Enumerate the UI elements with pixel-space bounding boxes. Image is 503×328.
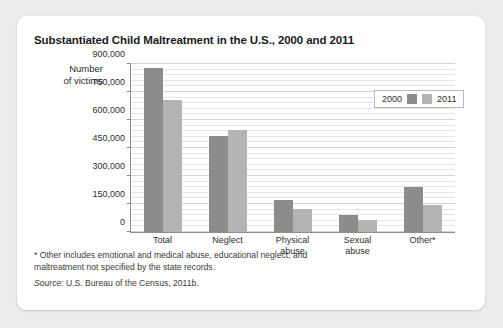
footnote: * Other includes emotional and medical a… — [34, 250, 334, 273]
y-axis-title-line-1: Number — [37, 63, 103, 75]
x-axis-tick-label: Other* — [393, 235, 453, 257]
x-axis-tick-label: Sexualabuse — [328, 235, 388, 257]
bar — [209, 136, 228, 232]
y-axis-tick-label: 150,000 — [92, 189, 125, 199]
y-axis-tick-label: 0 — [120, 217, 125, 227]
source-label: Source: — [34, 278, 64, 288]
y-axis-tick-label: 450,000 — [92, 133, 125, 143]
bar-group — [144, 64, 182, 232]
y-axis-tick-label: 300,000 — [92, 161, 125, 171]
bar — [404, 187, 423, 232]
source-text: U.S. Bureau of the Census, 2011b. — [64, 278, 199, 288]
page-title: Substantiated Child Maltreatment in the … — [34, 34, 354, 46]
y-axis-tick-label: 600,000 — [92, 105, 125, 115]
bar — [293, 209, 312, 232]
legend-swatch-2011 — [422, 94, 432, 104]
y-axis-tick-label: 900,000 — [92, 49, 125, 59]
chart-legend: 2000 2011 — [374, 90, 464, 108]
bar — [423, 205, 442, 232]
bar — [228, 130, 247, 232]
bar — [339, 215, 358, 232]
chart-card: Substantiated Child Maltreatment in the … — [17, 16, 485, 310]
bar-group — [339, 64, 377, 232]
page-background: Substantiated Child Maltreatment in the … — [0, 0, 503, 328]
bar — [163, 100, 182, 232]
bar-group — [209, 64, 247, 232]
source-line: Source: U.S. Bureau of the Census, 2011b… — [34, 278, 199, 288]
bar — [144, 68, 163, 232]
legend-swatch-2000 — [407, 94, 417, 104]
bar — [358, 220, 377, 232]
y-axis-tick-label: 750,000 — [92, 77, 125, 87]
bar-group — [274, 64, 312, 232]
bar — [274, 200, 293, 232]
legend-label-2000: 2000 — [382, 94, 402, 104]
legend-label-2011: 2011 — [437, 94, 456, 104]
